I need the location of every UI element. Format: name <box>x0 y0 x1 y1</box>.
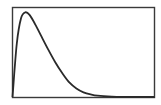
density-plot <box>0 0 161 105</box>
